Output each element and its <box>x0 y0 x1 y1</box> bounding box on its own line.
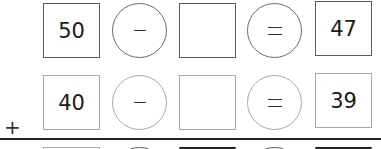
equals-operator <box>247 75 302 130</box>
minus-icon <box>134 102 146 104</box>
sum-operator-circle[interactable] <box>112 147 167 149</box>
sum-blank-box[interactable] <box>179 147 236 149</box>
equals-operator <box>247 3 302 58</box>
result-box: 39 <box>315 73 372 128</box>
minuend-value: 40 <box>58 91 85 115</box>
result-value: 47 <box>330 17 357 41</box>
equals-icon <box>268 27 282 35</box>
answer-blank-box[interactable] <box>179 3 236 58</box>
minuend-value: 50 <box>58 19 85 43</box>
plus-sign: + <box>4 117 21 137</box>
minuend-box: 50 <box>43 3 100 58</box>
sum-minuend-box[interactable] <box>43 147 100 149</box>
minus-operator <box>112 75 167 130</box>
answer-blank-box[interactable] <box>179 75 236 130</box>
result-box: 47 <box>315 1 372 56</box>
sum-equals-circle[interactable] <box>247 147 302 149</box>
minus-icon <box>134 30 146 32</box>
minus-operator <box>112 3 167 58</box>
sum-result-box[interactable] <box>315 147 372 149</box>
sum-rule-line <box>0 138 381 140</box>
result-value: 39 <box>330 89 357 113</box>
minuend-box: 40 <box>43 75 100 130</box>
equals-icon <box>268 99 282 107</box>
